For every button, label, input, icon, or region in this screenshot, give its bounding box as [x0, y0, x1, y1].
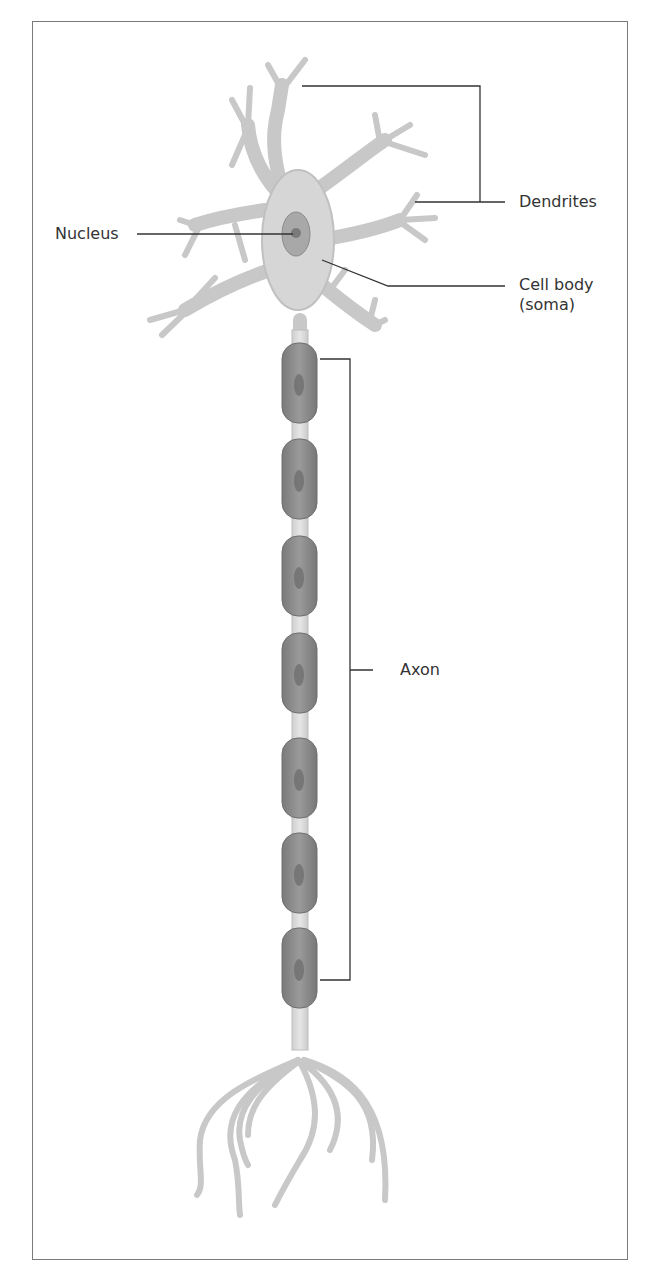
cell-body-leader: [322, 260, 505, 286]
axon-label: Axon: [400, 660, 440, 680]
nucleolus-shape: [291, 228, 301, 238]
nucleus-label: Nucleus: [55, 224, 119, 244]
axon-bracket: [320, 359, 373, 980]
dendrites-label: Dendrites: [519, 192, 597, 212]
soma-label: (soma): [519, 295, 575, 315]
cell-body-label: Cell body: [519, 275, 594, 295]
axon-terminals: [197, 1060, 385, 1215]
